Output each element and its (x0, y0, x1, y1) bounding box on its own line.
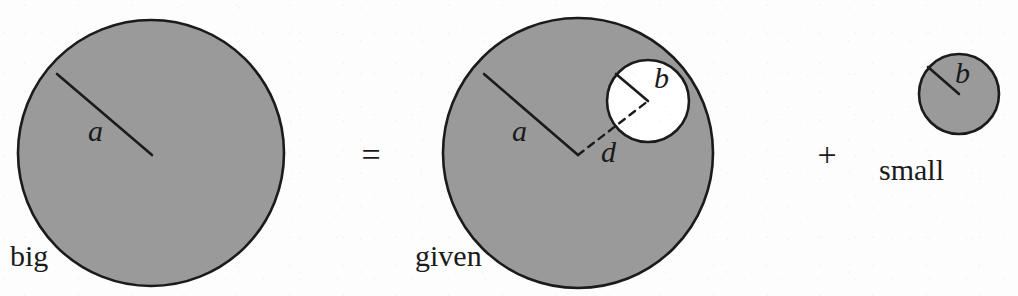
plus-operator: + (817, 136, 836, 173)
given-circle-radius-label: a (512, 114, 527, 147)
given-circle-distance-label: d (601, 135, 617, 168)
given-circle-caption: given (415, 239, 482, 272)
small-circle-radius-label: b (955, 56, 970, 89)
small-circle-group: b small (879, 54, 999, 186)
big-circle-radius-label: a (88, 114, 103, 147)
small-circle-caption: small (879, 153, 944, 186)
big-circle-caption: big (10, 239, 48, 272)
circle-decomposition-diagram: a big = a b d given + (0, 0, 1018, 296)
given-circle-disc (443, 18, 713, 288)
figure-canvas: a big = a b d given + (0, 0, 1018, 296)
equals-operator: = (361, 136, 380, 173)
given-circle-hole-radius-label: b (654, 61, 669, 94)
given-circle-group: a b d given (415, 18, 713, 288)
big-circle-group: a big (10, 20, 284, 286)
